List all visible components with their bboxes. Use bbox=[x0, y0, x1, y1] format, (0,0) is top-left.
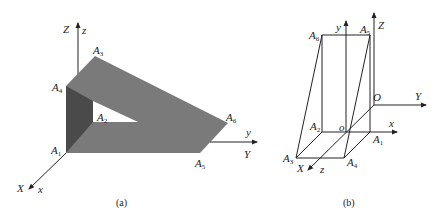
edge-A2-A3 bbox=[296, 132, 322, 158]
vertex-A4-a: A4 bbox=[51, 81, 63, 95]
vertex-A6-b: A6 bbox=[308, 29, 320, 43]
axis-label-O: O bbox=[373, 91, 381, 103]
vertex-A5-b: A5 bbox=[359, 23, 371, 37]
axis-label-X-b: X bbox=[296, 162, 305, 174]
diagram-canvas: Z z y Y X x A1 A2 A3 A4 A5 A6 (a) bbox=[0, 0, 438, 218]
vertex-A6-a: A6 bbox=[225, 111, 237, 125]
vertex-A4-b: A4 bbox=[346, 156, 358, 170]
vertex-A2-b: A2 bbox=[309, 120, 321, 134]
axis-label-x: x bbox=[37, 183, 43, 195]
vertex-A3-a: A3 bbox=[92, 44, 104, 58]
vertex-A3-b: A3 bbox=[282, 152, 294, 166]
axis-label-Z-b: Z bbox=[378, 19, 385, 31]
caption-a: (a) bbox=[116, 197, 127, 209]
x-axis-a bbox=[29, 153, 66, 189]
axis-label-o: o bbox=[339, 121, 345, 133]
vertex-A5-a: A5 bbox=[194, 157, 206, 171]
axis-label-x-b: x bbox=[388, 117, 394, 129]
figure-b-labels: y Z O Y o x X z A1 A2 A3 A4 A5 A6 (b) bbox=[282, 19, 423, 209]
edge-A6-A3 bbox=[296, 35, 322, 158]
vertex-A1-b: A1 bbox=[372, 133, 384, 147]
edge-A5-A4 bbox=[344, 35, 370, 158]
axis-label-z: z bbox=[81, 24, 87, 36]
axis-label-Y-b: Y bbox=[415, 90, 423, 102]
axis-label-y: y bbox=[245, 126, 251, 138]
axis-label-Z: Z bbox=[63, 23, 70, 35]
axis-label-y-b: y bbox=[335, 21, 341, 33]
figure-a: Z z y Y X x A1 A2 A3 A4 A5 A6 (a) bbox=[16, 23, 257, 209]
axis-label-Y: Y bbox=[244, 148, 252, 160]
axis-label-X: X bbox=[16, 182, 25, 194]
vertex-A1-a: A1 bbox=[50, 144, 62, 158]
caption-b: (b) bbox=[343, 197, 355, 209]
axis-label-z-b: z bbox=[319, 163, 325, 175]
edge-A1-A4 bbox=[344, 132, 370, 158]
